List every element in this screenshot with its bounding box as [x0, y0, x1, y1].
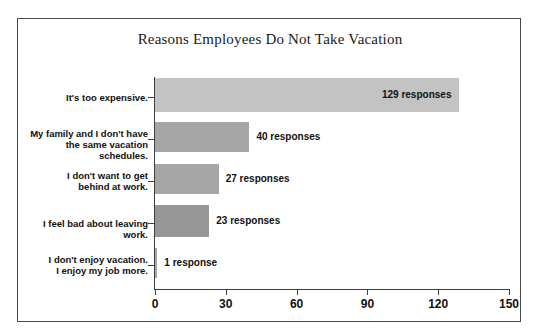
x-axis-line — [154, 289, 510, 290]
bar-value-label: 27 responses — [226, 174, 290, 184]
x-axis-tick — [438, 290, 439, 295]
clipped-top-text — [0, 0, 536, 4]
plot-area: 129 responses40 responses27 responses23 … — [155, 78, 509, 289]
bar-value-label: 129 responses — [382, 90, 452, 100]
x-axis-tick — [297, 290, 298, 295]
x-axis-tick — [509, 290, 510, 295]
x-axis-tick — [155, 290, 156, 295]
y-axis-tick — [148, 139, 154, 140]
chart-frame: Reasons Employees Do Not Take Vacation I… — [17, 18, 521, 322]
category-label: It's too expensive. — [66, 92, 148, 103]
category-label: My family and I don't have the same vaca… — [18, 128, 148, 161]
x-axis-tick-label: 90 — [361, 297, 374, 311]
bar-row[interactable]: 27 responses — [155, 164, 509, 194]
bar-row[interactable]: 23 responses — [155, 205, 509, 237]
category-label: I don't want to get behind at work. — [67, 170, 148, 192]
x-axis-tick-label: 0 — [152, 297, 159, 311]
y-axis-tick — [148, 265, 154, 266]
bar-row[interactable]: 1 response — [155, 248, 509, 278]
bar[interactable] — [155, 205, 209, 237]
y-axis-tick — [148, 181, 154, 182]
bar-value-label: 1 response — [164, 258, 217, 268]
x-axis-tick-label: 30 — [219, 297, 232, 311]
x-axis-tick-label: 120 — [428, 297, 448, 311]
y-axis-tick — [148, 97, 154, 98]
y-axis-tick — [148, 223, 154, 224]
category-axis-labels: It's too expensive.My family and I don't… — [18, 19, 148, 323]
bar[interactable] — [155, 122, 249, 152]
category-label: I feel bad about leaving work. — [18, 218, 148, 240]
x-axis-tick-label: 150 — [499, 297, 519, 311]
bar-row[interactable]: 129 responses — [155, 78, 509, 112]
category-label: I don't enjoy vacation. I enjoy my job m… — [49, 254, 148, 276]
bar[interactable] — [155, 248, 157, 278]
x-axis-tick-label: 60 — [290, 297, 303, 311]
x-axis-tick — [226, 290, 227, 295]
bar-value-label: 23 responses — [216, 216, 280, 226]
bar-row[interactable]: 40 responses — [155, 122, 509, 152]
bar-value-label: 40 responses — [256, 132, 320, 142]
x-axis-tick — [367, 290, 368, 295]
bar[interactable] — [155, 164, 219, 194]
